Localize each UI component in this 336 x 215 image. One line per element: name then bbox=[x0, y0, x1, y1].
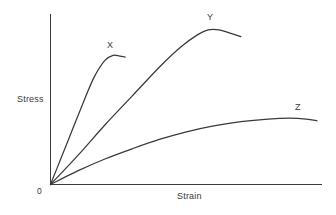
curve-series-x bbox=[51, 55, 126, 184]
x-axis-label: Strain bbox=[177, 192, 202, 201]
curve-label-z: Z bbox=[295, 103, 301, 112]
chart-plot-area bbox=[0, 0, 336, 215]
curve-series-y bbox=[51, 29, 241, 184]
curve-series-z bbox=[51, 118, 318, 184]
curve-label-x: X bbox=[107, 41, 113, 50]
curve-label-y: Y bbox=[207, 13, 213, 22]
origin-label: 0 bbox=[37, 187, 42, 196]
stress-strain-chart: Stress Strain 0 X Y Z bbox=[0, 0, 336, 215]
y-axis-label: Stress bbox=[17, 95, 44, 104]
